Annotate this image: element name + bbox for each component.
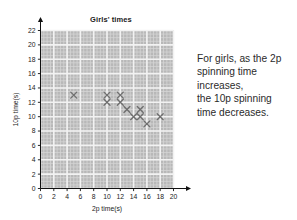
annotation-line-2: spinning time: [197, 65, 295, 78]
x-tick-label: 2: [52, 193, 56, 200]
x-tick-label: 20: [170, 193, 178, 200]
y-tick-label: 6: [32, 142, 36, 149]
y-tick-label: 4: [32, 156, 36, 163]
annotation-line-3: increases,: [197, 79, 295, 92]
y-tick-label: 18: [28, 56, 36, 63]
scatter-chart-panel: Girls' times 02468101214161820 024681012…: [0, 0, 196, 220]
x-tick-label: 6: [79, 193, 83, 200]
x-tick-label: 10: [103, 193, 111, 200]
x-tick-label: 14: [130, 193, 138, 200]
y-tick-label: 22: [28, 27, 36, 34]
y-tick-label: 2: [32, 171, 36, 178]
chart-plot-svg: 02468101214161820 0246810121416182022 2p…: [0, 0, 196, 220]
annotation-line-1: For girls, as the 2p: [197, 52, 295, 65]
x-axis-title: 2p time(s): [92, 205, 122, 213]
y-tick-label: 20: [28, 41, 36, 48]
y-tick-label: 14: [28, 84, 36, 91]
x-tick-label: 12: [117, 193, 125, 200]
y-tick-label: 12: [28, 99, 36, 106]
x-tick-label: 4: [65, 193, 69, 200]
y-axis-tick-labels: 0246810121416182022: [28, 27, 36, 192]
x-tick-label: 18: [156, 193, 164, 200]
x-tick-label: 0: [39, 193, 43, 200]
y-axis-title: 10p time(s): [12, 93, 20, 127]
y-tick-label: 16: [28, 70, 36, 77]
y-tick-label: 8: [32, 127, 36, 134]
annotation-line-5: time decreases.: [197, 106, 295, 119]
annotation-line-4: the 10p spinning: [197, 92, 295, 105]
screenshot-root: Girls' times 02468101214161820 024681012…: [0, 0, 297, 220]
x-axis-tick-labels: 02468101214161820: [39, 193, 178, 200]
y-tick-label: 10: [28, 113, 36, 120]
y-tick-label: 0: [32, 185, 36, 192]
x-tick-label: 16: [143, 193, 151, 200]
x-tick-label: 8: [92, 193, 96, 200]
annotation-text: For girls, as the 2p spinning time incre…: [197, 52, 295, 119]
